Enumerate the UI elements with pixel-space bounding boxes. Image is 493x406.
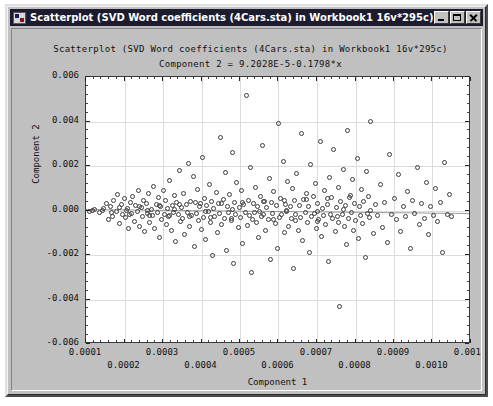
data-point <box>321 213 326 218</box>
y-tick-label: 0.004 <box>19 115 79 125</box>
axis-tick-minor <box>86 236 88 237</box>
plot-area[interactable] <box>85 76 470 343</box>
data-point <box>234 180 239 185</box>
data-point <box>136 188 141 193</box>
data-point <box>117 221 122 226</box>
data-point <box>305 220 310 225</box>
axis-tick-major <box>201 77 202 81</box>
data-point <box>375 213 380 218</box>
axis-tick-minor <box>467 192 469 193</box>
data-point <box>208 220 213 225</box>
axis-tick-minor <box>224 77 225 79</box>
x-tick-label: 0.0003 <box>132 347 192 357</box>
data-point <box>281 159 286 164</box>
axis-tick-minor <box>424 77 425 79</box>
x-tick-label: 0.0011 <box>440 347 482 357</box>
axis-tick-minor <box>177 77 178 79</box>
data-point <box>187 224 192 229</box>
data-point <box>271 189 276 194</box>
axis-tick-major <box>465 254 469 255</box>
data-point <box>333 229 338 234</box>
axis-tick-minor <box>108 77 109 79</box>
data-point <box>203 237 208 242</box>
data-point <box>147 220 152 225</box>
data-point <box>304 197 309 202</box>
data-point <box>408 246 413 251</box>
maximize-button[interactable] <box>450 11 465 24</box>
data-point <box>230 207 235 212</box>
axis-tick-minor <box>467 245 469 246</box>
axis-tick-minor <box>116 77 117 79</box>
data-point <box>169 228 174 233</box>
data-point <box>195 187 200 192</box>
close-button[interactable] <box>466 11 481 24</box>
data-point <box>194 211 199 216</box>
data-point <box>157 203 162 208</box>
data-point <box>249 270 254 275</box>
axis-tick-minor <box>208 340 209 342</box>
data-point <box>361 199 366 204</box>
axis-tick-minor <box>262 77 263 79</box>
axis-tick-minor <box>370 77 371 79</box>
data-point <box>202 196 207 201</box>
data-point <box>314 226 319 231</box>
x-tick-label: 0.0008 <box>325 360 385 370</box>
axis-tick-minor <box>467 227 469 228</box>
data-point <box>367 215 372 220</box>
data-point <box>147 213 152 218</box>
data-point <box>382 200 387 205</box>
minimize-button[interactable] <box>434 11 449 24</box>
axis-tick-minor <box>262 340 263 342</box>
data-point <box>327 175 332 180</box>
axis-tick-minor <box>86 263 88 264</box>
chart-title: Scatterplot (SVD Word coefficients (4Car… <box>12 44 482 54</box>
axis-tick-minor <box>424 340 425 342</box>
data-point <box>192 244 197 249</box>
data-point <box>358 213 363 218</box>
data-point <box>403 214 408 219</box>
data-point <box>267 176 272 181</box>
x-tick-label: 0.0009 <box>363 347 423 357</box>
axis-tick-minor <box>467 156 469 157</box>
axis-tick-minor <box>139 340 140 342</box>
axis-tick-major <box>465 165 469 166</box>
data-point <box>207 182 212 187</box>
data-point <box>240 241 245 246</box>
axis-tick-major <box>355 339 356 343</box>
gridline-vertical <box>278 77 279 342</box>
y-tick-label: 0.002 <box>19 159 79 169</box>
axis-tick-minor <box>439 340 440 342</box>
axis-tick-major <box>355 77 356 81</box>
data-point <box>209 199 214 204</box>
axis-tick-minor <box>86 156 88 157</box>
axis-tick-minor <box>308 340 309 342</box>
window-titlebar[interactable]: Scatterplot (SVD Word coefficients (4Car… <box>10 9 483 26</box>
scatterplot-window: Scatterplot (SVD Word coefficients (4Car… <box>5 4 488 397</box>
axis-tick-minor <box>139 77 140 79</box>
data-point <box>239 188 244 193</box>
axis-tick-minor <box>285 340 286 342</box>
axis-tick-minor <box>362 340 363 342</box>
axis-tick-major <box>470 77 471 81</box>
data-point <box>356 236 361 241</box>
data-point <box>442 160 447 165</box>
axis-tick-minor <box>231 77 232 79</box>
data-point <box>431 213 436 218</box>
axis-tick-minor <box>86 174 88 175</box>
axis-tick-minor <box>147 340 148 342</box>
axis-tick-minor <box>301 77 302 79</box>
data-point <box>222 216 227 221</box>
scatterplot-graph: Scatterplot (SVD Word coefficients (4Car… <box>12 29 482 391</box>
axis-tick-major <box>239 339 240 343</box>
axis-tick-minor <box>467 103 469 104</box>
data-point <box>294 171 299 176</box>
data-point <box>244 93 249 98</box>
data-point <box>230 150 235 155</box>
axis-tick-minor <box>416 77 417 79</box>
data-point <box>140 214 145 219</box>
data-point <box>398 229 403 234</box>
data-point <box>200 155 205 160</box>
data-point <box>127 212 132 217</box>
axis-tick-major <box>465 343 469 344</box>
axis-tick-minor <box>86 227 88 228</box>
